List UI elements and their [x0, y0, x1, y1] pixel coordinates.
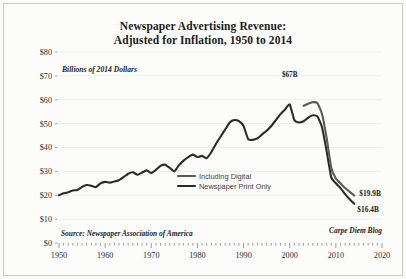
x-axis-labels: 19501960197019801990200020102020	[51, 251, 390, 260]
y-axis-tickmarks	[55, 52, 58, 243]
legend-label-1: Newspaper Print Only	[199, 182, 271, 191]
x-tick-label-1990: 1990	[235, 251, 251, 260]
x-tick-label-1980: 1980	[189, 251, 205, 260]
y-tick-label-10: $10	[40, 215, 52, 224]
y-tick-label-40: $40	[40, 143, 52, 152]
x-tick-label-1950: 1950	[51, 251, 67, 260]
data-annotations: $67B$19.9B$16.4B	[282, 71, 381, 214]
chart-plot: $0$10$20$30$40$50$60$70$80 1950196019701…	[0, 0, 406, 279]
x-tick-label-1960: 1960	[97, 251, 113, 260]
chart-legend: Including DigitalNewspaper Print Only	[178, 172, 271, 191]
annotation-end-digital-label: $19.9B	[359, 189, 381, 198]
y-tick-label-0: $0	[44, 239, 52, 248]
source-note-left: Source: Newspaper Association of America	[61, 229, 193, 238]
x-tick-label-2000: 2000	[282, 251, 298, 260]
annotation-peak-label: $67B	[282, 71, 298, 79]
x-axis-minor-ticks	[64, 243, 378, 246]
y-tick-label-20: $20	[40, 191, 52, 200]
y-tick-label-50: $50	[40, 120, 52, 129]
y-axis-unit-note: Billions of 2014 Dollars	[61, 65, 137, 74]
chart-card: Newspaper Advertising Revenue: Adjusted …	[0, 0, 406, 279]
y-tick-label-70: $70	[40, 72, 52, 81]
source-note-right: Carpe Diem Blog	[329, 226, 382, 235]
legend-label-0: Including Digital	[199, 172, 252, 181]
y-tick-label-60: $60	[40, 96, 52, 105]
annotation-end-print-label: $16.4B	[357, 205, 379, 214]
x-tick-label-2010: 2010	[328, 251, 344, 260]
x-tick-label-1970: 1970	[143, 251, 159, 260]
y-tick-label-30: $30	[40, 167, 52, 176]
y-tick-label-80: $80	[40, 48, 52, 57]
y-axis-labels: $0$10$20$30$40$50$60$70$80	[40, 48, 52, 248]
x-tick-label-2020: 2020	[374, 251, 390, 260]
